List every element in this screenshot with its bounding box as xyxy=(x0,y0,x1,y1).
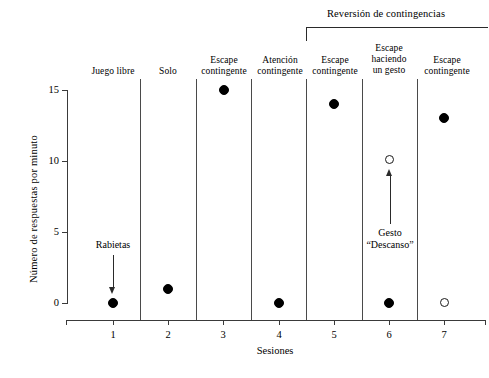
reversal-bracket-left-tick xyxy=(306,27,307,41)
phase-header-line-2: haciendo xyxy=(358,54,420,65)
phase-header-session-3: Escape contingente xyxy=(192,55,256,77)
phase-separator-4-5 xyxy=(306,79,307,320)
phase-separator-5-6 xyxy=(362,79,363,320)
data-point-filled-s7 xyxy=(439,113,449,123)
data-point-filled-s1 xyxy=(108,298,118,308)
phase-header-line-1: Escape xyxy=(358,43,420,54)
phase-header-line-2: contingente xyxy=(192,66,256,77)
gesto-annotation-line-2: “Descanso” xyxy=(359,239,421,251)
gesto-annotation-label: Gesto “Descanso” xyxy=(359,227,421,250)
reversal-bracket-label: Reversión de contingencias xyxy=(327,8,445,19)
data-point-filled-s6 xyxy=(384,298,394,308)
x-tick-3 xyxy=(223,320,224,325)
y-tick-label-0: 0 xyxy=(37,297,59,308)
y-tick-label-15: 15 xyxy=(37,84,59,95)
chart-figure: Reversión de contingencias Juego libre S… xyxy=(0,0,489,378)
data-point-open-s6 xyxy=(385,155,394,164)
phase-header-line-2: contingente xyxy=(414,66,480,77)
y-tick-label-5: 5 xyxy=(37,226,59,237)
phase-header-session-7: Escape contingente xyxy=(414,55,480,77)
rabietas-arrow-shaft xyxy=(113,255,114,289)
y-axis-title: Número de respuestas por minuto xyxy=(28,135,39,283)
x-axis-left-cap xyxy=(66,320,67,325)
gesto-arrow-head-icon xyxy=(386,169,392,176)
x-tick-label-5: 5 xyxy=(324,329,344,340)
data-point-open-s7 xyxy=(440,298,449,307)
x-tick-2 xyxy=(168,320,169,325)
x-tick-7 xyxy=(444,320,445,325)
y-tick-15 xyxy=(62,90,67,91)
x-tick-label-2: 2 xyxy=(158,329,178,340)
y-axis-line xyxy=(67,90,68,304)
x-axis-title: Sesiones xyxy=(215,345,335,356)
x-tick-1 xyxy=(113,320,114,325)
phase-header-line-1: Juego libre xyxy=(78,66,148,77)
phase-header-session-2: Solo xyxy=(140,66,196,77)
phase-header-line-1: Solo xyxy=(140,66,196,77)
data-point-filled-s4 xyxy=(274,298,284,308)
x-tick-5 xyxy=(334,320,335,325)
x-tick-label-6: 6 xyxy=(379,329,399,340)
phase-header-line-1: Escape xyxy=(192,55,256,66)
phase-header-line-1: Escape xyxy=(414,55,480,66)
phase-separator-1-2 xyxy=(140,79,141,320)
x-tick-label-4: 4 xyxy=(269,329,289,340)
y-tick-5 xyxy=(62,232,67,233)
gesto-annotation-line-1: Gesto xyxy=(359,227,421,239)
y-tick-10 xyxy=(62,161,67,162)
phase-header-session-1: Juego libre xyxy=(78,66,148,77)
y-tick-0 xyxy=(62,303,67,304)
phase-header-session-6: Escape haciendo un gesto xyxy=(358,43,420,76)
x-tick-label-3: 3 xyxy=(213,329,233,340)
data-point-filled-s5 xyxy=(329,99,339,109)
phase-header-line-3: un gesto xyxy=(358,65,420,76)
y-tick-label-10: 10 xyxy=(37,155,59,166)
x-tick-label-7: 7 xyxy=(434,329,454,340)
data-point-filled-s2 xyxy=(163,284,173,294)
x-tick-4 xyxy=(279,320,280,325)
rabietas-annotation-label: Rabietas xyxy=(83,239,143,251)
gesto-arrow-shaft xyxy=(390,176,391,224)
data-point-filled-s3 xyxy=(219,85,229,95)
x-tick-6 xyxy=(389,320,390,325)
x-axis-right-cap xyxy=(485,320,486,325)
reversal-bracket-horizontal-line xyxy=(306,27,488,28)
x-tick-label-1: 1 xyxy=(103,329,123,340)
x-axis-line xyxy=(66,320,486,321)
phase-separator-3-4 xyxy=(251,79,252,320)
phase-separator-6-7 xyxy=(417,79,418,320)
rabietas-arrow-head-icon xyxy=(109,287,115,294)
phase-separator-2-3 xyxy=(196,79,197,320)
